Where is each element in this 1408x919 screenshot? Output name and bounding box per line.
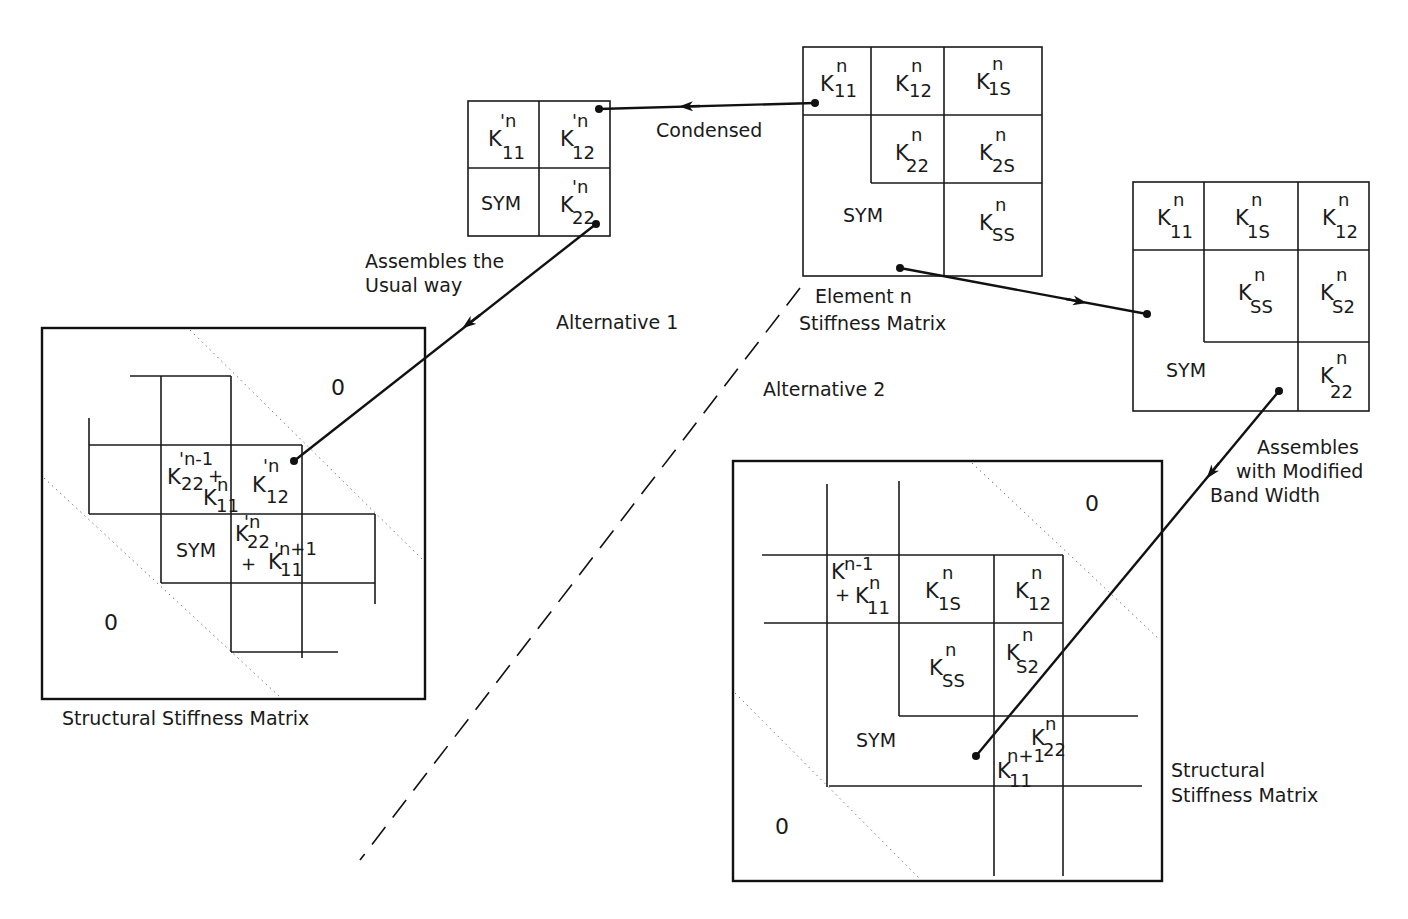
cell-k22-prime-plus-k11-n+1: K 'n 22 + K 'n+1 11 [235,511,317,580]
svg-text:n: n [1338,189,1349,210]
cell-k12-prime: K 'n 12 [252,455,289,507]
assembles-modified-label: Assembles [1257,436,1359,458]
svg-text:22: 22 [906,155,929,176]
condensed-label: Condensed [656,119,762,141]
svg-text:n+1: n+1 [1007,745,1045,766]
assembles-usual-label-2: Usual way [365,274,462,296]
svg-text:12: 12 [266,486,289,507]
assemble-usual-arrow: Assembles the Usual way [290,220,600,465]
svg-text:+: + [241,553,256,574]
zero-lower: 0 [775,814,789,839]
svg-text:22: 22 [1043,739,1066,760]
svg-text:SS: SS [942,670,965,691]
svg-text:12: 12 [1028,593,1051,614]
cell-kss: K n SS [929,639,965,691]
zero-upper: 0 [331,375,345,400]
cell-k1s: K n 1S [925,562,961,614]
svg-text:n: n [836,55,847,76]
svg-text:n: n [1251,189,1262,210]
svg-text:11: 11 [834,80,857,101]
assembles-usual-label: Assembles the [365,250,504,272]
svg-text:K: K [252,473,267,497]
condensed-matrix: K 'n 11 K 'n 12 K 'n 22 SYM [468,101,610,236]
sym-label: SYM [481,192,521,214]
svg-text:22: 22 [1330,381,1353,402]
cell-k11: K n 11 [1157,189,1193,242]
svg-text:SS: SS [1250,296,1273,317]
cell-k11-n+1-plus-k22: K n 22 K n+1 11 [997,713,1066,791]
svg-text:n: n [945,639,956,660]
sym-label: SYM [856,729,896,751]
svg-text:11: 11 [1170,221,1193,242]
cell-ks2: K n S2 [1320,264,1355,317]
assembles-modified-label-3: Band Width [1210,484,1320,506]
svg-text:n: n [911,55,922,76]
structural-stiffness-label: Structural Stiffness Matrix [62,707,309,729]
svg-text:n: n [911,124,922,145]
svg-text:n: n [217,474,228,495]
svg-text:22: 22 [181,473,204,494]
svg-text:11: 11 [1009,770,1032,791]
svg-text:n: n [942,562,953,583]
cell-k12: K n 12 [1015,562,1051,614]
cell-k1s: K n 1S [1235,189,1270,242]
sym-label: SYM [1166,359,1206,381]
cell-k22-prime: K 'n 22 [560,176,595,228]
sym-label: SYM [843,204,883,226]
svg-text:n: n [1336,264,1347,285]
svg-text:'n: 'n [500,110,516,131]
svg-text:n: n [1254,264,1265,285]
alternative-2-label: Alternative 2 [763,378,885,400]
svg-text:n: n [1031,562,1042,583]
structural-stiffness-label-2: Stiffness Matrix [1171,784,1318,806]
element-n-label: Element n [815,285,912,307]
svg-text:n: n [992,53,1003,74]
svg-text:12: 12 [572,142,595,163]
cell-k22: K n 22 [895,124,929,176]
svg-text:S2: S2 [1332,296,1355,317]
svg-text:12: 12 [1335,221,1358,242]
element-n-label-2: Stiffness Matrix [799,312,946,334]
svg-text:n: n [995,124,1006,145]
svg-text:+: + [835,584,850,605]
svg-text:n-1: n-1 [844,553,873,574]
zero-upper: 0 [1085,491,1099,516]
svg-text:'n+1: 'n+1 [274,538,317,559]
svg-text:12: 12 [909,80,932,101]
svg-text:S2: S2 [1016,656,1039,677]
cell-kss: K n SS [979,194,1015,245]
cell-ks2: K n S2 [1006,624,1039,677]
cell-k12-prime: K 'n 12 [560,110,595,163]
alternative-1-label: Alternative 1 [556,311,678,333]
svg-text:n: n [1173,189,1184,210]
svg-text:11: 11 [280,559,303,580]
structural-stiffness-label: Structural [1171,759,1265,781]
cell-k12: K n 12 [1322,189,1358,242]
zero-lower: 0 [104,610,118,635]
cell-k12: K n 12 [895,55,932,101]
cell-k1s: K n 1S [976,53,1011,99]
svg-text:K: K [820,72,835,96]
svg-text:11: 11 [502,142,525,163]
cell-k22-prime-n-1-plus-k11: K 'n-1 22 + K n 11 [167,448,239,516]
reorder-arrow [896,264,1151,318]
svg-text:2S: 2S [992,155,1015,176]
cell-kss: K n SS [1238,264,1273,317]
reordered-element-matrix: K n 11 K n 1S K n 12 K n SS K n S2 K n 2… [1133,182,1369,411]
stiffness-assembly-diagram: K n 11 K n 12 K n 1S K n 22 K n 2S K n S… [0,0,1408,919]
svg-text:11: 11 [216,495,239,516]
sym-label: SYM [176,539,216,561]
svg-text:n: n [1045,713,1056,734]
svg-text:K: K [895,72,910,96]
cell-k11: K n 11 [820,55,857,101]
svg-text:n: n [1336,347,1347,368]
cell-k22: K n 22 [1320,347,1353,402]
svg-text:SS: SS [992,224,1015,245]
element-n-stiffness-matrix: K n 11 K n 12 K n 1S K n 22 K n 2S K n S… [799,47,1042,334]
svg-text:'n: 'n [244,511,260,532]
cell-k11-prime: K 'n 11 [488,110,525,163]
svg-text:1S: 1S [938,593,961,614]
svg-text:1S: 1S [1247,221,1270,242]
svg-text:'n: 'n [263,455,279,476]
assembles-modified-label-2: with Modified [1236,460,1363,482]
